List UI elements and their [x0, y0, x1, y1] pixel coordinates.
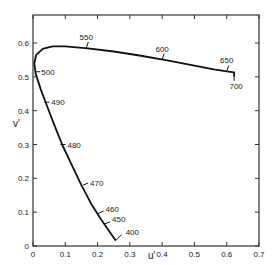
wavelength-label: 650: [220, 56, 234, 65]
plot-frame: [33, 15, 259, 246]
axis-ticks: 00.10.20.30.40.50.60.700.10.20.30.40.50.…: [18, 15, 265, 259]
wavelength-label: 550: [80, 33, 94, 42]
wavelength-label: 700: [229, 82, 243, 91]
wavelength-label: 480: [67, 141, 81, 150]
wavelength-tick: [98, 211, 104, 214]
y-axis-label: v': [13, 118, 20, 129]
wavelength-tick: [227, 65, 229, 71]
wavelength-label: 460: [106, 205, 120, 214]
wavelength-tick: [162, 54, 164, 60]
y-tick-label: 0.4: [18, 107, 30, 116]
wavelength-label: 500: [41, 68, 55, 77]
wavelength-tick: [83, 183, 88, 185]
x-tick-label: 0.2: [92, 250, 104, 259]
wavelength-tick: [116, 235, 122, 241]
wavelength-tick: [86, 42, 88, 48]
x-tick-label: 0: [31, 250, 36, 259]
y-tick-label: 0.3: [18, 141, 30, 150]
x-tick-label: 0.4: [157, 250, 169, 259]
spectrum-locus: [34, 46, 234, 240]
wavelength-marks: 550600650700500490480470460450400: [35, 33, 243, 241]
chromaticity-chart: 00.10.20.30.40.50.60.700.10.20.30.40.50.…: [0, 0, 279, 265]
y-tick-label: 0.2: [18, 174, 30, 183]
x-tick-label: 0.5: [189, 250, 201, 259]
plot-border: [33, 15, 259, 246]
x-tick-label: 0.7: [253, 250, 265, 259]
x-tick-label: 0.1: [60, 250, 72, 259]
wavelength-label: 400: [126, 228, 140, 237]
wavelength-label: 450: [112, 215, 126, 224]
wavelength-tick: [104, 222, 110, 224]
y-tick-label: 0.6: [18, 39, 30, 48]
x-tick-label: 0.3: [124, 250, 136, 259]
x-axis-label: u': [148, 250, 156, 261]
wavelength-label: 490: [51, 98, 65, 107]
x-tick-label: 0.6: [221, 250, 233, 259]
wavelength-label: 600: [155, 45, 169, 54]
wavelength-label: 470: [90, 179, 104, 188]
locus-line: [34, 46, 234, 240]
y-tick-label: 0.1: [18, 208, 30, 217]
y-tick-label: 0: [25, 242, 30, 251]
y-tick-label: 0.5: [18, 73, 30, 82]
